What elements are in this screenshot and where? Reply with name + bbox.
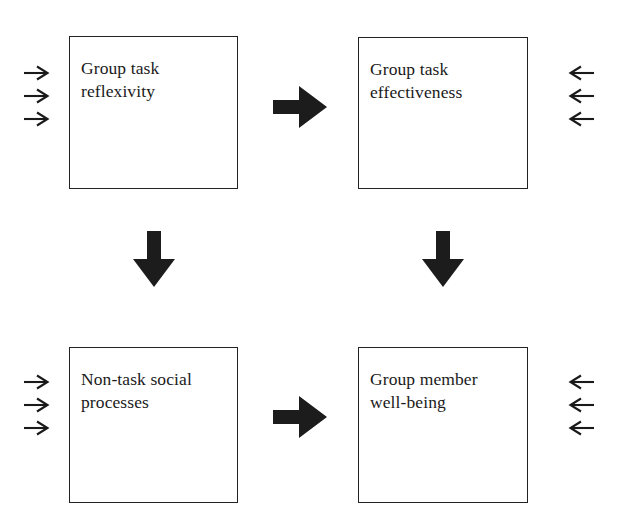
arrow-left-icon bbox=[566, 395, 596, 415]
thick-arrow-down-icon-effectiveness-to-well-being bbox=[420, 231, 466, 289]
arrow-left-icon bbox=[566, 109, 596, 129]
arrow-right-icon bbox=[22, 109, 52, 129]
thin-arrow-group-outputs-from-effectiveness bbox=[566, 63, 596, 129]
arrow-right-icon bbox=[22, 63, 52, 83]
concept-diagram: Group task reflexivity Group task effect… bbox=[0, 0, 623, 515]
node-label-group-task-effectiveness: Group task effectiveness bbox=[370, 58, 521, 105]
arrow-left-icon bbox=[566, 63, 596, 83]
node-group-task-reflexivity[interactable]: Group task reflexivity bbox=[69, 36, 238, 189]
node-label-group-member-well-being: Group member well-being bbox=[370, 368, 521, 415]
thick-arrow-right-icon-reflexivity-to-effectiveness bbox=[273, 84, 329, 130]
thick-arrow-right-icon-social-processes-to-well-being bbox=[273, 394, 329, 440]
arrow-right-icon bbox=[22, 86, 52, 106]
node-label-group-task-reflexivity: Group task reflexivity bbox=[81, 57, 231, 104]
arrow-left-icon bbox=[566, 372, 596, 392]
node-non-task-social-processes[interactable]: Non-task social processes bbox=[69, 347, 238, 503]
node-group-task-effectiveness[interactable]: Group task effectiveness bbox=[358, 37, 528, 189]
thin-arrow-group-inputs-to-social-processes bbox=[22, 372, 52, 438]
arrow-left-icon bbox=[566, 418, 596, 438]
arrow-right-icon bbox=[22, 372, 52, 392]
thin-arrow-group-inputs-to-reflexivity bbox=[22, 63, 52, 129]
thick-arrow-down-icon-reflexivity-to-social-processes bbox=[131, 231, 177, 289]
node-group-member-well-being[interactable]: Group member well-being bbox=[358, 347, 528, 503]
arrow-right-icon bbox=[22, 418, 52, 438]
arrow-right-icon bbox=[22, 395, 52, 415]
node-label-non-task-social-processes: Non-task social processes bbox=[81, 368, 231, 415]
thin-arrow-group-outputs-from-well-being bbox=[566, 372, 596, 438]
arrow-left-icon bbox=[566, 86, 596, 106]
